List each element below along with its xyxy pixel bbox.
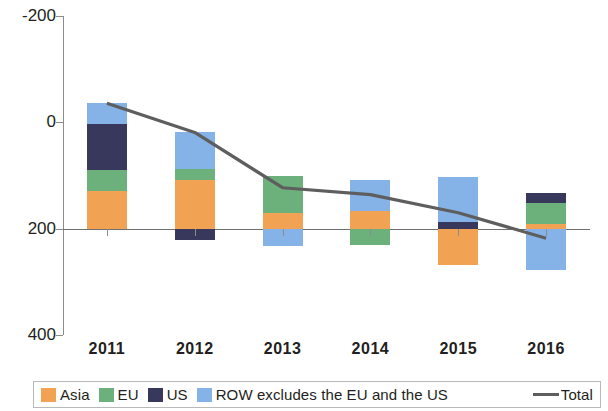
x-axis-tick: [283, 229, 284, 236]
legend-label: Asia: [60, 386, 90, 403]
y-axis-label: -200: [0, 6, 56, 26]
y-axis-label: 0: [0, 112, 56, 132]
bar-segment[interactable]: [438, 222, 478, 229]
bar-group[interactable]: [175, 16, 215, 335]
y-axis-tick: [56, 335, 63, 336]
bar-segment[interactable]: [87, 103, 127, 124]
bar-segment[interactable]: [87, 191, 127, 228]
legend-item[interactable]: EU: [99, 386, 139, 403]
x-axis-label: 2012: [176, 340, 214, 358]
legend-label: Total: [561, 386, 593, 403]
legend-item[interactable]: ROW excludes the EU and the US: [197, 386, 448, 403]
bar-segment[interactable]: [263, 213, 303, 229]
bar-segment[interactable]: [263, 176, 303, 213]
x-axis-tick: [458, 229, 459, 236]
y-axis-tick: [56, 122, 63, 123]
x-axis-label: 2011: [89, 340, 126, 358]
bar-group[interactable]: [438, 16, 478, 335]
y-axis-label: 200: [0, 219, 56, 239]
legend-item[interactable]: US: [148, 386, 188, 403]
legend-label: EU: [118, 386, 139, 403]
bar-segment[interactable]: [175, 180, 215, 228]
bar-segment[interactable]: [175, 169, 215, 180]
bar-segment[interactable]: [175, 132, 215, 169]
x-axis-tick: [546, 229, 547, 236]
bar-segment[interactable]: [87, 124, 127, 169]
x-axis-tick: [195, 229, 196, 236]
zero-baseline: [63, 229, 590, 230]
legend-line-icon: [533, 393, 559, 396]
bar-segment[interactable]: [526, 193, 566, 203]
x-axis-label: 2014: [352, 340, 390, 358]
stacked-bar-chart: 4002000-200 201120122013201420152016 Asi…: [0, 0, 608, 411]
total-line-path: [107, 103, 546, 238]
x-axis-label: 2013: [264, 340, 302, 358]
legend-label: US: [167, 386, 188, 403]
y-axis-label: 400: [0, 325, 56, 345]
plot-area: [63, 16, 590, 335]
legend-item[interactable]: Asia: [41, 386, 90, 403]
x-axis-label: 2015: [439, 340, 477, 358]
legend-swatch-icon: [148, 388, 163, 402]
total-line-series: [63, 16, 590, 335]
bar-segment[interactable]: [438, 177, 478, 222]
x-axis-tick: [107, 229, 108, 236]
legend-swatch-icon: [41, 388, 56, 402]
bar-group[interactable]: [263, 16, 303, 335]
bar-group[interactable]: [350, 16, 390, 335]
bar-group[interactable]: [87, 16, 127, 335]
bar-segment[interactable]: [87, 170, 127, 192]
legend-swatch-icon: [197, 388, 212, 402]
x-axis-label: 2016: [527, 340, 565, 358]
bar-segment[interactable]: [350, 211, 390, 229]
y-axis-line: [63, 16, 64, 335]
y-axis-tick: [56, 229, 63, 230]
x-axis-tick: [370, 229, 371, 236]
bar-group[interactable]: [526, 16, 566, 335]
bar-segment[interactable]: [350, 180, 390, 210]
chart-legend: AsiaEUUSROW excludes the EU and the USTo…: [33, 381, 601, 408]
legend-label: ROW excludes the EU and the US: [216, 386, 448, 403]
legend-swatch-icon: [99, 388, 114, 402]
y-axis-tick: [56, 16, 63, 17]
bar-segment[interactable]: [526, 203, 566, 225]
legend-item[interactable]: Total: [533, 386, 593, 403]
